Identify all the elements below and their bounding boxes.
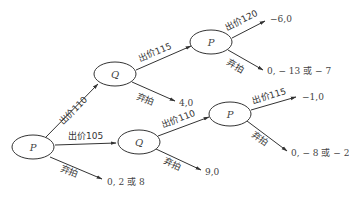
player-label: P: [226, 109, 234, 120]
node-root: P: [12, 135, 54, 159]
edge-labels: 出价110 出价105 弃拍 出价115 弃拍 出价120 弃拍 出价110 弃…: [57, 7, 288, 180]
edge-label-q1-pass: 弃拍: [135, 91, 156, 108]
payoff-q2-pass: 9,0: [205, 167, 220, 177]
player-label: Q: [111, 69, 119, 80]
node-p2: P: [190, 30, 232, 54]
edge-label-p3-bid115: 出价115: [250, 85, 287, 106]
payoff-root-pass: 0, 2 或 8: [107, 176, 145, 187]
edge-label-p2-bid120: 出价120: [223, 7, 260, 33]
edge-label-root-bid105: 出价105: [68, 130, 103, 141]
node-q2: Q: [118, 130, 160, 154]
node-p3: P: [209, 102, 251, 126]
payoff-p3-bid115: −1,0: [302, 92, 324, 102]
player-label: P: [29, 142, 37, 153]
payoff-p2-bid120: −6,0: [270, 14, 292, 24]
edge-label-q1-bid115: 出价115: [136, 40, 173, 64]
edge-label-p3-pass: 弃拍: [250, 129, 271, 148]
game-tree-diagram: P Q P Q P 出价110 出价105 弃拍 出价115 弃拍 出价120 …: [0, 0, 349, 201]
player-label: P: [207, 37, 215, 48]
payoff-p3-pass: 0, − 8 或 − 2: [291, 147, 349, 158]
node-q1: Q: [94, 62, 136, 86]
edge-label-q2-bid110: 出价110: [160, 107, 197, 130]
edge-label-root-bid110: 出价110: [57, 94, 90, 127]
edge-label-q2-pass: 弃拍: [162, 155, 183, 172]
edge-root-bid105: [55, 143, 116, 145]
payoff-q1-pass: 4,0: [179, 98, 194, 108]
payoff-p2-pass: 0, − 13 或 − 7: [267, 65, 331, 76]
player-label: Q: [135, 137, 143, 148]
